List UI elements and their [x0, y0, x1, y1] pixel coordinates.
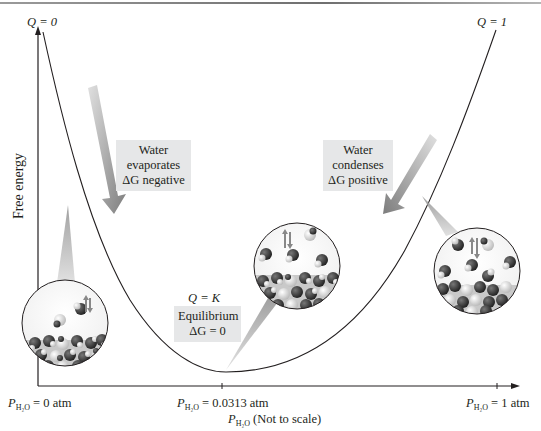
- low-pressure-inset: [20, 280, 110, 373]
- x-axis-label: PH₂O (Not to scale): [228, 413, 321, 428]
- x-tick-equilibrium: PH₂O = 0.0313 atm: [177, 397, 269, 412]
- inset-pointer-left: [57, 205, 75, 283]
- inset-pointer-right: [422, 196, 458, 236]
- evaporates-callout: Water evaporates ΔG negative: [116, 140, 191, 191]
- x-tick-1-atm: PH₂O = 1 atm: [466, 397, 529, 412]
- q-one-label: Q = 1: [477, 16, 507, 29]
- y-axis-label: Free energy: [11, 153, 27, 219]
- q-zero-label: Q = 0: [27, 16, 57, 29]
- high-pressure-inset: [430, 228, 525, 320]
- equilibrium-callout: Equilibrium ΔG = 0: [174, 306, 241, 342]
- axes: [35, 26, 520, 389]
- x-axis-arrow-icon: [511, 383, 520, 389]
- tick-value: = 0 atm: [33, 396, 71, 410]
- not-to-scale-text: (Not to scale): [253, 412, 321, 426]
- condenses-callout: Water condenses ΔG positive: [323, 140, 393, 191]
- x-tick-0-atm: PH₂O = 0 atm: [8, 397, 71, 412]
- free-energy-diagram: [0, 0, 541, 431]
- h2o-subscript: H₂O: [16, 403, 30, 412]
- p-var: P: [177, 396, 185, 410]
- callout-line: Water: [120, 143, 187, 158]
- tick-value: = 0.0313 atm: [202, 396, 268, 410]
- p-var: P: [466, 396, 474, 410]
- callout-line: ΔG negative: [120, 173, 187, 188]
- callout-line: ΔG = 0: [178, 324, 237, 339]
- callout-line: evaporates: [120, 158, 187, 173]
- q-zero-text: Q = 0: [27, 15, 57, 29]
- h2o-subscript: H₂O: [185, 403, 199, 412]
- q-equals-k-text: Q = K: [188, 291, 220, 305]
- h2o-subscript: H₂O: [236, 419, 250, 428]
- p-var: P: [228, 412, 236, 426]
- p-var: P: [8, 396, 16, 410]
- callout-line: Water: [327, 143, 389, 158]
- h2o-subscript: H₂O: [474, 403, 488, 412]
- tick-value: = 1 atm: [491, 396, 529, 410]
- equilibrium-inset: [250, 223, 345, 315]
- callout-line: ΔG positive: [327, 173, 389, 188]
- q-equals-k-label: Q = K: [188, 292, 220, 305]
- q-one-text: Q = 1: [477, 15, 507, 29]
- callout-line: Equilibrium: [178, 309, 237, 324]
- callout-line: condenses: [327, 158, 389, 173]
